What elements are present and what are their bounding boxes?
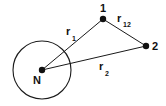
diagram-canvas: N 1 2 r 1 r 2 r 12 [0, 0, 166, 106]
particle-2-label: 2 [152, 40, 158, 52]
particle-1-label: 1 [100, 2, 106, 14]
vector-label-r1-subscript: 1 [72, 35, 76, 42]
vector-label-r2-subscript: 2 [105, 70, 109, 77]
nucleus-center-dot [39, 67, 45, 73]
vector-label-r1-base: r [66, 25, 71, 37]
vector-label-r12-subscript: 12 [123, 21, 131, 28]
particle-2-dot [143, 43, 149, 49]
nucleus-label: N [33, 74, 41, 86]
vector-label-r12-base: r [117, 12, 122, 24]
vector-label-r2-base: r [99, 60, 104, 72]
figure-background [0, 0, 166, 106]
particle-1-dot [100, 16, 106, 22]
physics-diagram-figure: N 1 2 r 1 r 2 r 12 [0, 0, 166, 106]
